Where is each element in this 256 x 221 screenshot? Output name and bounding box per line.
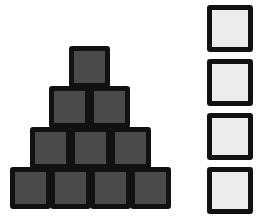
light-block-column — [0, 0, 256, 221]
light-block — [207, 167, 253, 214]
light-block — [207, 113, 253, 160]
light-block — [207, 59, 253, 106]
light-block — [207, 5, 253, 52]
